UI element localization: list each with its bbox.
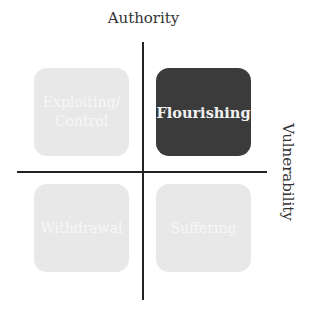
quadrant-label-line1: Exploiting/ [41, 93, 122, 112]
quadrant-flourishing: Flourishing [156, 68, 251, 156]
axis-label-vulnerability: Vulnerability [279, 123, 297, 220]
quadrant-withdrawal: Withdrawal [34, 184, 129, 272]
quadrant-label-line2: Control [41, 112, 122, 131]
quadrant-label: Withdrawal [38, 219, 124, 238]
quadrant-label: Suffering [169, 219, 239, 238]
quadrant-suffering: Suffering [156, 184, 251, 272]
quadrant-label: Flourishing [154, 103, 252, 122]
quadrant-exploiting-control: Exploiting/ Control [34, 68, 129, 156]
horizontal-axis-line [17, 171, 267, 173]
axis-label-authority: Authority [0, 9, 287, 27]
